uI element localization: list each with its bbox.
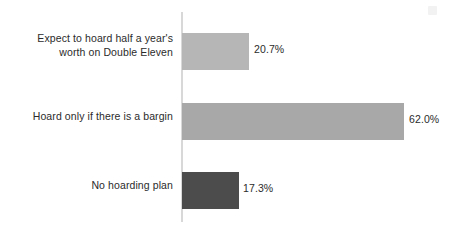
value-label: 17.3% [243, 181, 273, 195]
value-label: 20.7% [254, 42, 284, 56]
bar [182, 172, 239, 209]
category-label: No hoarding plan [91, 179, 173, 193]
category-label: Expect to hoard half a year's worth on D… [37, 32, 173, 59]
category-label: Hoard only if there is a bargin [33, 110, 173, 124]
plot-area: Expect to hoard half a year's worth on D… [0, 0, 456, 230]
bar [182, 33, 249, 70]
bar-chart: Expect to hoard half a year's worth on D… [0, 0, 456, 230]
bar [182, 103, 404, 140]
value-label: 62.0% [409, 112, 439, 126]
